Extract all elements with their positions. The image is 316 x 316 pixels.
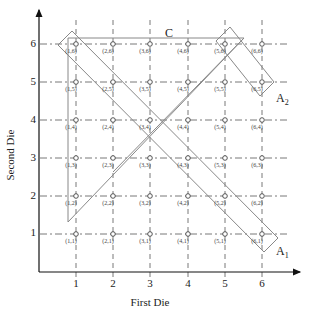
y-tick-3: 3 bbox=[31, 152, 37, 163]
point-label: (5,4) bbox=[214, 124, 226, 130]
point-label: (5,2) bbox=[214, 200, 226, 206]
point-label: (2,2) bbox=[102, 200, 114, 206]
point-label: (1,5) bbox=[65, 86, 77, 92]
region-a2-name: A bbox=[276, 91, 285, 105]
y-tick-1: 1 bbox=[31, 227, 37, 238]
point-label: (2,5) bbox=[102, 86, 114, 92]
x-tick-6: 6 bbox=[259, 278, 265, 289]
region-a1-subscript: 1 bbox=[285, 251, 289, 260]
point-label: (1,1) bbox=[65, 238, 77, 244]
point-label: (3,5) bbox=[139, 86, 151, 92]
x-tick-3: 3 bbox=[147, 278, 153, 289]
point-label: (6,3) bbox=[251, 162, 263, 168]
region-a2-subscript: 2 bbox=[285, 98, 289, 107]
x-tick-2: 2 bbox=[110, 278, 116, 289]
region-a2-diagonal bbox=[113, 38, 244, 172]
point-label: (1,6) bbox=[65, 48, 77, 54]
point-label: (6,5) bbox=[251, 86, 263, 92]
point-label: (6,6) bbox=[251, 48, 263, 54]
point-label: (3,3) bbox=[139, 162, 151, 168]
x-tick-1: 1 bbox=[73, 278, 79, 289]
point-label: (2,3) bbox=[102, 162, 114, 168]
point-label: (1,2) bbox=[65, 200, 77, 206]
point-label: (2,1) bbox=[102, 238, 114, 244]
point-label: (5,6) bbox=[214, 48, 226, 54]
region-c-label: C bbox=[165, 27, 173, 39]
point-label: (6,1) bbox=[251, 238, 263, 244]
x-axis-title: First Die bbox=[131, 297, 170, 308]
y-tick-2: 2 bbox=[31, 190, 37, 201]
point-label: (2,4) bbox=[102, 124, 114, 130]
x-tick-4: 4 bbox=[185, 278, 191, 289]
point-label: (4,4) bbox=[177, 124, 189, 130]
x-tick-5: 5 bbox=[222, 278, 228, 289]
region-a2-label: A2 bbox=[276, 92, 289, 107]
point-label: (2,6) bbox=[102, 48, 114, 54]
point-label: (3,4) bbox=[139, 124, 151, 130]
point-label: (4,3) bbox=[177, 162, 189, 168]
point-label: (6,4) bbox=[251, 124, 263, 130]
point-label: (5,5) bbox=[214, 86, 226, 92]
y-axis-title: Second Die bbox=[5, 129, 16, 180]
point-label: (3,6) bbox=[139, 48, 151, 54]
point-label: (4,6) bbox=[177, 48, 189, 54]
point-label: (1,4) bbox=[65, 124, 77, 130]
region-a1-band bbox=[58, 31, 278, 252]
point-label: (4,2) bbox=[177, 200, 189, 206]
y-tick-4: 4 bbox=[31, 114, 37, 125]
region-a1-label: A1 bbox=[276, 245, 289, 260]
sample-points bbox=[74, 42, 265, 237]
point-label: (5,3) bbox=[214, 162, 226, 168]
dice-sample-space-diagram bbox=[0, 0, 316, 316]
region-a1-name: A bbox=[276, 244, 285, 258]
y-tick-5: 5 bbox=[31, 76, 37, 87]
point-label: (1,3) bbox=[65, 162, 77, 168]
point-label: (6,2) bbox=[251, 200, 263, 206]
point-label: (3,1) bbox=[139, 238, 151, 244]
point-label: (3,2) bbox=[139, 200, 151, 206]
point-label: (4,1) bbox=[177, 238, 189, 244]
point-label: (5,1) bbox=[214, 238, 226, 244]
y-tick-6: 6 bbox=[31, 38, 37, 49]
point-label: (4,5) bbox=[177, 86, 189, 92]
